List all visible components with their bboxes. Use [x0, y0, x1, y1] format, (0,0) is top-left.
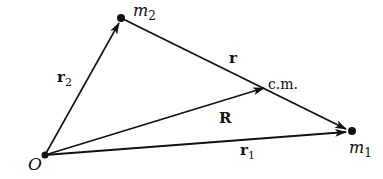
- m2-label: m2: [133, 1, 156, 23]
- R-label: R: [219, 109, 232, 127]
- m1-label: m1: [349, 138, 372, 160]
- r-label: r: [229, 49, 238, 67]
- origin-point: [42, 152, 49, 159]
- vector-r1: [45, 132, 346, 155]
- cm-label: c.m.: [268, 76, 298, 92]
- origin-label: O: [28, 154, 42, 174]
- vector-r: [121, 18, 346, 129]
- mass-m2-point: [117, 14, 125, 22]
- r2-label: r2: [57, 68, 72, 89]
- mass-m1-point: [348, 127, 356, 135]
- center-of-mass-diagram: O m2 m1 c.m. r2 R r1 r: [0, 0, 383, 179]
- r1-label: r1: [240, 141, 255, 162]
